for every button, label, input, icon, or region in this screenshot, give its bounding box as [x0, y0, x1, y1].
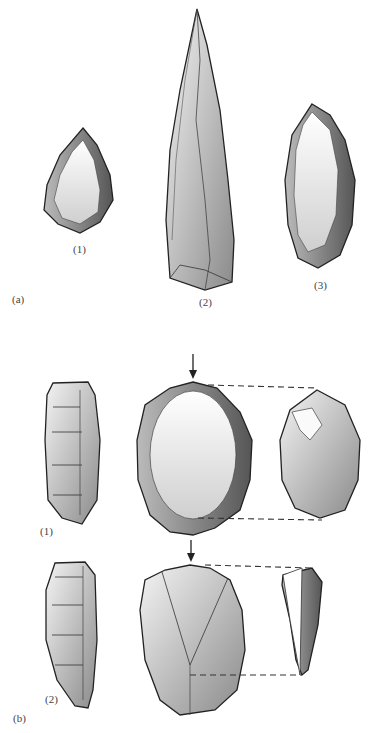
arrow-down-icon [189, 354, 197, 379]
core-b1-face [137, 382, 252, 535]
core-b2-side [46, 562, 97, 708]
panel-label-a: (a) [12, 294, 24, 305]
label-a2: (2) [199, 297, 212, 308]
arrow-down-icon [187, 540, 195, 562]
label-a1: (1) [73, 244, 86, 255]
core-b2-face [140, 565, 245, 715]
label-b2: (2) [45, 694, 58, 705]
tool-a2 [166, 9, 234, 290]
core-b1-side [45, 382, 100, 524]
stone-tools-figure: (1) (2) (3) (a) (1) (2) (b) [0, 0, 384, 733]
tool-a1 [44, 128, 113, 233]
label-a3: (3) [314, 280, 327, 291]
flake-b1 [280, 390, 360, 518]
illustration-canvas [0, 0, 384, 733]
label-b1: (1) [40, 526, 53, 537]
flake-b2 [282, 568, 322, 675]
panel-label-b: (b) [13, 713, 26, 724]
tool-a3 [285, 104, 355, 268]
